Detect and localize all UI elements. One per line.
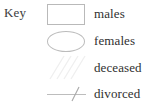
slashed-line-icon [46,81,88,106]
legend-entry-deceased: deceased [0,55,160,81]
legend-entry-females: females [0,28,160,54]
legend-label-males: males [94,1,125,27]
legend-entry-males: males [0,1,160,27]
legend-label-females: females [94,28,135,54]
deceased-symbol-cell [46,55,88,81]
legend-label-deceased: deceased [94,55,142,81]
males-symbol-cell [46,1,88,27]
females-symbol-cell [46,28,88,54]
legend-entry-divorced: divorced [0,81,160,106]
ellipse-symbol [47,31,85,52]
legend-label-divorced: divorced [94,81,140,106]
divorced-symbol-cell [46,81,88,106]
pedigree-legend: Key males females deceased [0,0,160,106]
diagonal-hatch-icon [46,55,88,81]
rectangle-symbol [47,4,85,25]
